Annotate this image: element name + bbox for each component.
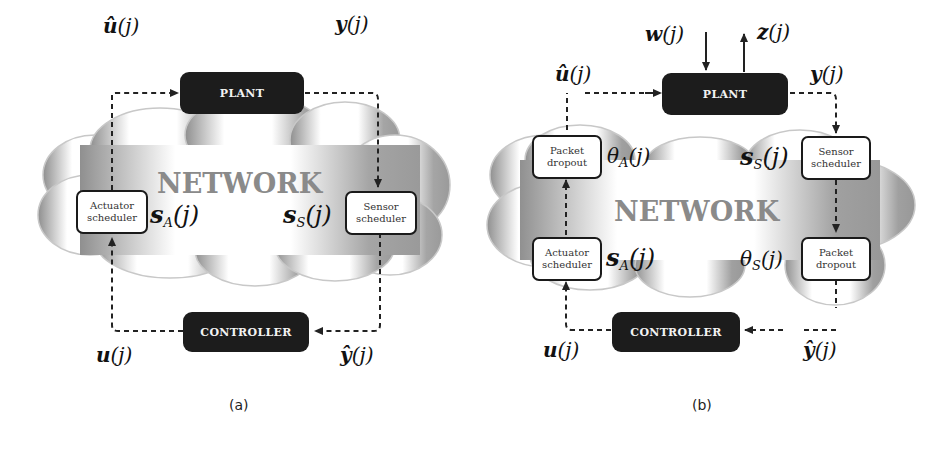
signal-s-s-a: sS(j): [283, 203, 332, 229]
block-line: Actuator: [90, 200, 134, 213]
sym: θ: [607, 144, 619, 168]
disturbance-arrows-b: [706, 32, 744, 72]
arg: (j): [305, 201, 331, 229]
signal-u-b: u(j): [543, 340, 579, 360]
actuator-scheduler-a: Actuator scheduler: [76, 190, 148, 234]
arg: (j): [629, 244, 655, 272]
sym: y: [335, 12, 347, 36]
arg: (j): [558, 338, 580, 362]
controller-label: CONTROLLER: [630, 326, 721, 339]
block-line: Sensor: [363, 201, 398, 214]
sub: S: [752, 258, 761, 273]
sensor-dropout-b: Packet dropout: [801, 237, 871, 281]
signal-u-a: u(j): [96, 345, 132, 365]
signal-y-hat-b: ŷ(j): [803, 340, 836, 360]
signal-s-a-b: sA(j): [606, 246, 655, 272]
sym: û: [555, 62, 570, 86]
signal-y-b: y(j): [810, 64, 843, 84]
signal-s-s-b: sS(j): [740, 145, 789, 171]
arg: (j): [815, 338, 837, 362]
controller-block-b: CONTROLLER: [612, 312, 740, 352]
block-line: scheduler: [356, 213, 406, 226]
block-line: Sensor: [818, 146, 853, 159]
block-line: dropout: [547, 157, 587, 170]
plant-label: PLANT: [220, 87, 264, 100]
actuator-scheduler-b: Actuator scheduler: [532, 237, 602, 281]
signal-theta-a-b: θA(j): [607, 146, 650, 169]
arg: (j): [761, 247, 783, 271]
network-label-b: NETWORK: [614, 196, 779, 227]
sym: θ: [740, 247, 752, 271]
arg: (j): [762, 143, 788, 171]
block-line: Packet: [550, 145, 584, 158]
signal-y-a: y(j): [335, 14, 368, 34]
arg: (j): [822, 62, 844, 86]
signal-z-b: z(j): [757, 22, 790, 42]
arg: (j): [768, 20, 790, 44]
plant-label: PLANT: [703, 88, 747, 101]
sym: û: [103, 14, 118, 38]
signal-w-b: w(j): [645, 24, 684, 44]
sym: ŷ: [803, 338, 815, 362]
actuator-dropout-b: Packet dropout: [532, 135, 602, 179]
sym: w: [645, 22, 662, 46]
arg: (j): [352, 343, 374, 367]
arg: (j): [111, 343, 133, 367]
caption-b: (b): [692, 397, 712, 413]
arg: (j): [347, 12, 369, 36]
arg: (j): [662, 22, 684, 46]
plant-block-a: PLANT: [180, 72, 304, 114]
sym: u: [96, 343, 111, 367]
block-line: dropout: [816, 259, 856, 272]
sym: s: [283, 200, 297, 229]
caption-a: (a): [229, 397, 249, 413]
sym: u: [543, 338, 558, 362]
sensor-scheduler-a: Sensor scheduler: [345, 191, 417, 235]
sym: s: [740, 142, 754, 171]
controller-label: CONTROLLER: [200, 326, 291, 339]
arg: (j): [570, 62, 592, 86]
controller-block-a: CONTROLLER: [183, 312, 309, 352]
arg: (j): [628, 144, 650, 168]
plant-block-b: PLANT: [662, 73, 788, 115]
signal-u-hat-b: û(j): [555, 64, 591, 84]
arg: (j): [118, 14, 140, 38]
sym: s: [150, 200, 164, 229]
signal-y-hat-a: ŷ(j): [340, 345, 373, 365]
signal-u-hat-a: û(j): [103, 16, 139, 36]
sub: A: [164, 215, 173, 230]
sym: s: [606, 243, 620, 272]
network-label-a: NETWORK: [157, 168, 322, 199]
block-line: scheduler: [811, 158, 861, 171]
sub: A: [620, 258, 629, 273]
arg: (j): [173, 201, 199, 229]
signal-theta-s-b: θS(j): [740, 249, 783, 272]
block-line: Packet: [819, 247, 853, 260]
block-line: scheduler: [542, 259, 592, 272]
block-line: Actuator: [545, 247, 589, 260]
block-line: scheduler: [87, 212, 137, 225]
sensor-scheduler-b: Sensor scheduler: [801, 136, 871, 180]
sym: ŷ: [340, 343, 352, 367]
sym: z: [757, 20, 768, 44]
sym: y: [810, 62, 822, 86]
signal-s-a-a: sA(j): [150, 203, 199, 229]
